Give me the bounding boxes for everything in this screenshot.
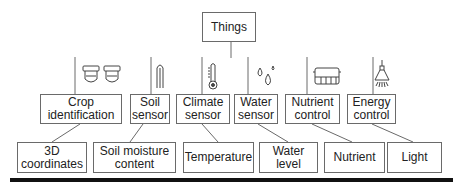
leaf-soil-moisture-content: Soil moisture content — [93, 142, 176, 173]
leaf-water-level: Water level — [259, 142, 318, 173]
category-crop-identification: Crop identification — [40, 94, 122, 124]
leaf-3d-coordinates: 3D coordinates — [17, 142, 87, 173]
leaf-nutrient: Nutrient — [324, 142, 385, 173]
lamp-icon — [374, 60, 390, 90]
category-water-sensor: Water sensor — [234, 94, 278, 124]
root-node-things: Things — [202, 12, 256, 42]
bottom-rule — [10, 178, 453, 182]
camera-pair-icon — [82, 64, 124, 86]
category-climate-sensor: Climate sensor — [176, 94, 230, 124]
category-soil-sensor: Soil sensor — [130, 94, 170, 124]
leaf-light: Light — [387, 142, 442, 173]
category-energy-control: Energy control — [347, 94, 396, 124]
category-nutrient-control: Nutrient control — [285, 94, 340, 124]
soil-probe-icon — [155, 62, 165, 90]
thermometer-icon — [207, 62, 219, 90]
leaf-temperature: Temperature — [183, 142, 254, 173]
nutrient-controller-icon — [313, 66, 341, 86]
water-drops-icon — [255, 64, 277, 88]
